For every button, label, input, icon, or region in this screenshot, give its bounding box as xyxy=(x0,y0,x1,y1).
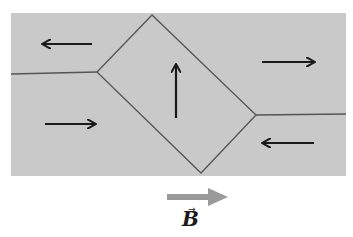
field-arrow-shaft xyxy=(167,194,210,200)
vector-symbol: → xyxy=(188,204,196,214)
field-arrow-head-icon xyxy=(208,188,228,206)
magnetic-domain-diagram: B → xyxy=(0,0,353,237)
